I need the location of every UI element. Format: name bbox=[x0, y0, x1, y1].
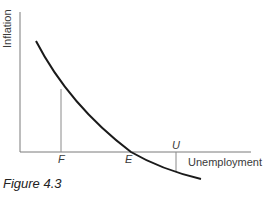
point-f-label: F bbox=[58, 154, 65, 165]
figure-caption: Figure 4.3 bbox=[3, 176, 62, 191]
y-axis-label: Inflation bbox=[2, 9, 13, 48]
x-axis-label: Unemployment bbox=[188, 157, 262, 168]
point-e-label: E bbox=[125, 154, 132, 165]
point-u-label: U bbox=[172, 140, 180, 151]
phillips-curve-diagram bbox=[0, 0, 269, 198]
